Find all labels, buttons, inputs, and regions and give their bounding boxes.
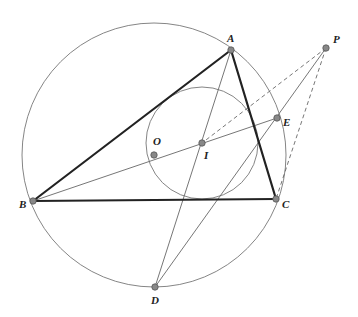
label-A: A: [226, 32, 234, 44]
point-C: [273, 196, 279, 202]
label-C: C: [282, 198, 290, 210]
point-P: [323, 45, 329, 51]
segment-AD: [155, 50, 231, 287]
side-BC: [33, 199, 276, 201]
point-B: [30, 198, 36, 204]
label-P: P: [333, 33, 340, 45]
dashed-lines: [202, 48, 326, 199]
geometry-diagram: ABCDEIOP: [0, 0, 358, 317]
point-E: [274, 115, 280, 121]
point-labels: ABCDEIOP: [18, 32, 340, 306]
point-I: [199, 140, 205, 146]
dashed-segment-PI: [202, 48, 326, 143]
side-AB: [33, 50, 231, 201]
point-O: [151, 152, 157, 158]
point-A: [228, 47, 234, 53]
triangle-abc: [33, 50, 276, 201]
point-D: [152, 284, 158, 290]
label-I: I: [203, 149, 209, 161]
side-CA: [231, 50, 276, 199]
label-B: B: [18, 198, 26, 210]
label-E: E: [282, 116, 290, 128]
segment-BE: [33, 118, 277, 201]
label-O: O: [153, 135, 161, 147]
label-D: D: [150, 294, 159, 306]
